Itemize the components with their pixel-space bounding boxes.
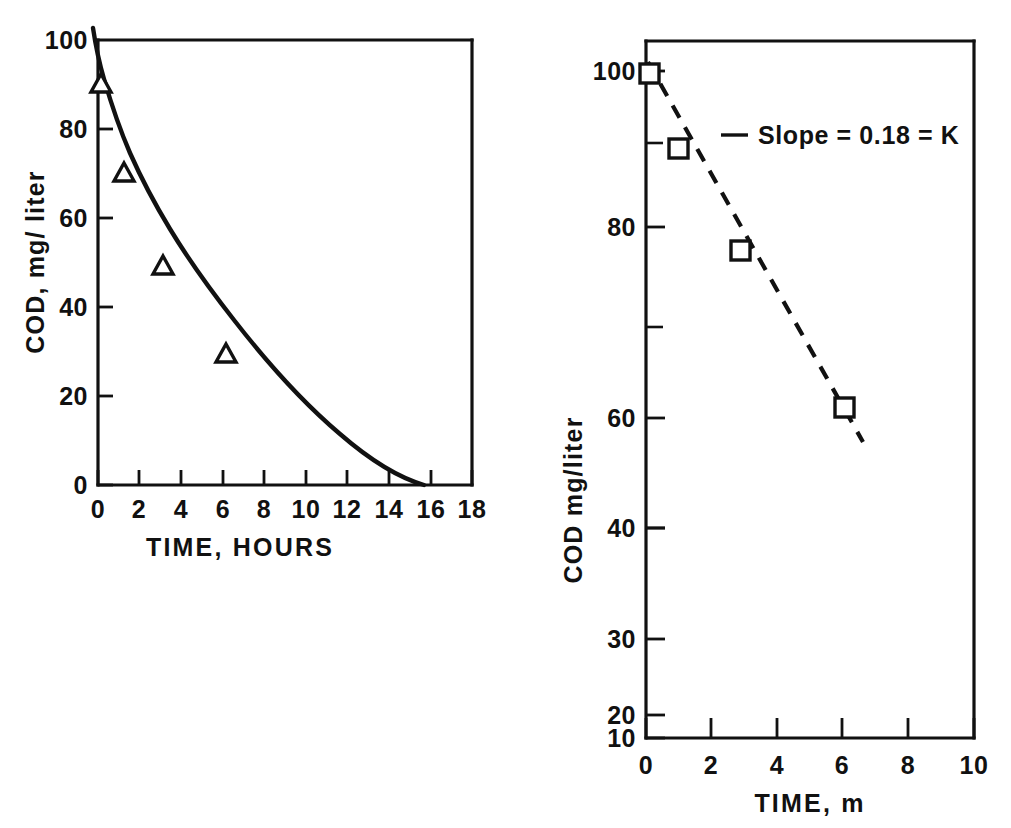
legend-label-slope: Slope = 0.18 = K (758, 121, 959, 149)
left-marker-point-1 (91, 74, 111, 92)
left-y-axis-title: COD, mg/ liter (21, 170, 49, 354)
left-x-tick-label-16: 16 (417, 495, 446, 523)
right-y-tick-label-10: 10 (607, 724, 636, 752)
left-y-tick-label-20: 20 (59, 382, 88, 410)
right-y-tick-labels: 100 80 60 40 10 (593, 57, 636, 752)
left-x-tick-label-14: 14 (375, 495, 404, 523)
chart-panel-right: Slope = 0.18 = K 100 80 60 40 10 0 2 4 6… (510, 0, 1011, 828)
right-marker-point-3 (731, 241, 750, 260)
left-plot-frame (98, 40, 472, 485)
left-x-tick-label-6: 6 (216, 495, 230, 523)
left-decay-curve (93, 28, 424, 485)
left-x-axis-title: TIME, HOURS (146, 533, 334, 561)
right-x-tick-label-2: 2 (704, 751, 718, 779)
right-y-tick-label-60: 60 (607, 404, 636, 432)
right-x-tick-label-8: 8 (901, 751, 915, 779)
right-y-tick-label-80: 80 (607, 213, 636, 241)
left-chart-svg: 0 20 40 60 80 100 0 2 4 6 8 10 12 14 16 … (0, 0, 510, 600)
right-y-tick-label-100: 100 (593, 57, 636, 85)
right-x-ticks (646, 718, 974, 738)
right-legend: Slope = 0.18 = K (721, 121, 959, 149)
right-chart-svg: Slope = 0.18 = K 100 80 60 40 10 0 2 4 6… (510, 0, 1011, 828)
right-marker-point-4 (835, 398, 854, 417)
right-marker-point-1 (640, 64, 659, 83)
chart-panel-left: 0 20 40 60 80 100 0 2 4 6 8 10 12 14 16 … (0, 0, 510, 600)
left-x-tick-labels: 0 2 4 6 8 10 12 14 16 18 (91, 495, 487, 523)
right-x-tick-label-10: 10 (960, 751, 989, 779)
right-y-axis-title: COD mg/liter (559, 416, 587, 583)
figure-container: 0 20 40 60 80 100 0 2 4 6 8 10 12 14 16 … (0, 0, 1011, 828)
left-y-tick-label-100: 100 (45, 26, 88, 54)
left-x-tick-label-8: 8 (257, 495, 271, 523)
right-y-tick-label-40: 40 (607, 514, 636, 542)
right-x-tick-label-6: 6 (835, 751, 849, 779)
right-marker-point-2 (669, 139, 688, 158)
left-x-tick-label-0: 0 (91, 495, 105, 523)
left-y-tick-label-0: 0 (74, 471, 88, 499)
right-x-tick-label-0: 0 (639, 751, 653, 779)
left-y-ticks (98, 129, 113, 485)
left-marker-point-4 (216, 344, 236, 362)
right-y-ticks (646, 71, 665, 528)
right-x-tick-labels: 0 2 4 6 8 10 (639, 751, 989, 779)
left-y-tick-labels: 0 20 40 60 80 100 (45, 26, 88, 499)
left-y-tick-label-60: 60 (59, 204, 88, 232)
left-marker-point-2 (114, 163, 134, 181)
left-x-tick-label-10: 10 (292, 495, 321, 523)
left-marker-point-3 (153, 256, 173, 274)
left-y-tick-label-80: 80 (59, 115, 88, 143)
left-y-tick-label-40: 40 (59, 293, 88, 321)
left-x-tick-label-4: 4 (174, 495, 188, 523)
left-x-tick-label-18: 18 (458, 495, 487, 523)
left-x-tick-label-12: 12 (333, 495, 362, 523)
right-x-tick-label-4: 4 (770, 751, 784, 779)
right-x-axis-title: TIME, m (754, 789, 865, 817)
left-x-tick-label-2: 2 (132, 495, 146, 523)
right-data-markers (640, 64, 854, 417)
right-regression-line (648, 62, 863, 442)
